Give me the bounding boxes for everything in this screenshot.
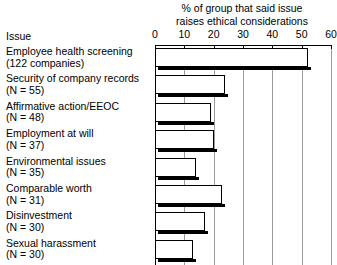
bar-shadow bbox=[158, 231, 208, 234]
bar bbox=[155, 185, 222, 204]
x-tick-label-50: 50 bbox=[296, 29, 308, 40]
x-tick-label-20: 20 bbox=[208, 29, 220, 40]
bar bbox=[155, 130, 214, 149]
chart-title: % of group that said issue raises ethica… bbox=[148, 2, 336, 27]
category-label-line-2: (N = 35) bbox=[6, 167, 152, 179]
x-tick-60 bbox=[331, 45, 332, 49]
category-axis-header: Issue bbox=[6, 30, 31, 42]
gridline-40 bbox=[272, 46, 273, 265]
x-tick-label-60: 60 bbox=[325, 29, 337, 40]
bar bbox=[155, 212, 205, 231]
chart-title-line-1: % of group that said issue bbox=[148, 2, 336, 15]
bar-group bbox=[155, 75, 225, 94]
bar bbox=[155, 75, 225, 94]
category-label: Comparable worth(N = 31) bbox=[6, 183, 152, 206]
bar-shadow bbox=[158, 122, 214, 125]
category-label: Employee health screening(122 companies) bbox=[6, 46, 152, 69]
bar-group bbox=[155, 240, 193, 259]
category-label-line-2: (N = 48) bbox=[6, 112, 152, 124]
x-tick-label-40: 40 bbox=[266, 29, 278, 40]
category-label: Employment at will(N = 37) bbox=[6, 128, 152, 151]
gridline-50 bbox=[302, 46, 303, 265]
category-label-line-1: Employee health screening bbox=[6, 46, 152, 58]
bar-shadow bbox=[158, 259, 196, 262]
x-tick-label-30: 30 bbox=[237, 29, 249, 40]
bar-group bbox=[155, 48, 308, 67]
category-label-line-2: (N = 30) bbox=[6, 249, 152, 261]
bar-shadow bbox=[158, 149, 217, 152]
category-label-line-1: Comparable worth bbox=[6, 183, 152, 195]
category-label: Disinvestment(N = 30) bbox=[6, 210, 152, 233]
bar-group bbox=[155, 130, 214, 149]
bar-group bbox=[155, 212, 205, 231]
bar-group bbox=[155, 158, 196, 177]
bar bbox=[155, 103, 211, 122]
bar bbox=[155, 240, 193, 259]
bar-shadow bbox=[158, 94, 228, 97]
bar-shadow bbox=[158, 67, 311, 70]
x-tick-label-10: 10 bbox=[178, 29, 190, 40]
bar-group bbox=[155, 185, 222, 204]
x-tick-label-0: 0 bbox=[152, 29, 158, 40]
category-label: Sexual harassment(N = 30) bbox=[6, 238, 152, 261]
gridline-60 bbox=[331, 46, 332, 265]
category-label-line-2: (N = 55) bbox=[6, 85, 152, 97]
category-label-line-2: (N = 30) bbox=[6, 222, 152, 234]
category-label: Environmental issues(N = 35) bbox=[6, 156, 152, 179]
category-label: Affirmative action/EEOC(N = 48) bbox=[6, 101, 152, 124]
bar bbox=[155, 48, 308, 67]
gridline-30 bbox=[243, 46, 244, 265]
bar bbox=[155, 158, 196, 177]
category-label-column: Issue Employee health screening(122 comp… bbox=[0, 0, 152, 265]
chart-title-line-2: raises ethical considerations bbox=[148, 15, 336, 28]
category-label-line-2: (122 companies) bbox=[6, 58, 152, 70]
category-label-line-2: (N = 37) bbox=[6, 140, 152, 152]
category-label: Security of company records(N = 55) bbox=[6, 73, 152, 96]
category-label-line-2: (N = 31) bbox=[6, 195, 152, 207]
bar-group bbox=[155, 103, 211, 122]
bar-shadow bbox=[158, 204, 225, 207]
bar-shadow bbox=[158, 177, 199, 180]
